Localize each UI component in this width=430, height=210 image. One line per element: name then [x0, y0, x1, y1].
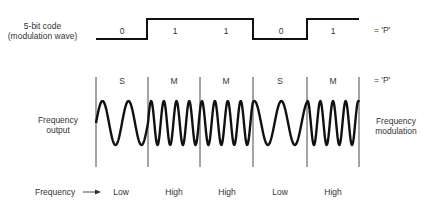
code-label: 5-bit code (modulation wave): [5, 21, 80, 41]
frequency-label: Frequency: [35, 187, 75, 197]
arrow-icon: [83, 190, 101, 195]
segment-label: M: [216, 76, 236, 86]
segments-equals-label: = 'P': [374, 75, 390, 85]
frequency-value: High: [318, 187, 348, 197]
segment-label: M: [164, 76, 184, 86]
frequency-modulation-label: Frequency modulation: [366, 116, 426, 136]
bit-label: 1: [216, 26, 236, 36]
code-equals-label: = 'P': [374, 25, 390, 35]
segment-label: M: [323, 76, 343, 86]
frequency-output-label: Frequency output: [28, 115, 88, 135]
bit-label: 1: [323, 26, 343, 36]
segment-label: S: [112, 76, 132, 86]
bit-label: 0: [271, 26, 291, 36]
frequency-value: High: [159, 187, 189, 197]
frequency-value: High: [212, 187, 242, 197]
frequency-value: Low: [265, 187, 295, 197]
bit-label: 0: [112, 26, 132, 36]
segment-label: S: [270, 76, 290, 86]
bit-label: 1: [165, 26, 185, 36]
frequency-output-wave: [96, 101, 359, 145]
frequency-value: Low: [106, 187, 136, 197]
